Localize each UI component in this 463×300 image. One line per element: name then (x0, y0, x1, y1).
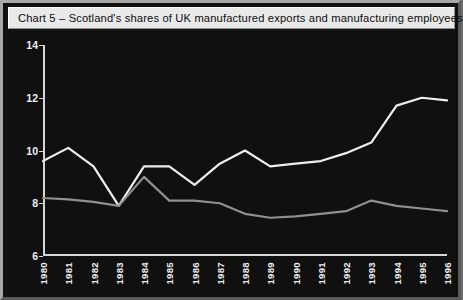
y-tick-label-14: 14 (26, 39, 38, 51)
x-tick-label-1984: 1984 (139, 262, 150, 285)
plot-area: 68101214 1980198119821983198419851986198… (43, 45, 447, 256)
y-tick-label-10: 10 (26, 145, 38, 157)
x-tick-label-1985: 1985 (164, 262, 175, 285)
y-tick-mark-6 (39, 256, 43, 257)
y-tick-label-12: 12 (26, 92, 38, 104)
x-tick-label-1983: 1983 (113, 262, 124, 285)
x-tick-label-1994: 1994 (391, 262, 402, 285)
x-tick-label-1989: 1989 (265, 262, 276, 285)
chart-title-bar: Chart 5 – Scotland's shares of UK manufa… (8, 7, 455, 29)
x-tick-label-1993: 1993 (366, 262, 377, 285)
x-tick-label-1982: 1982 (88, 262, 99, 285)
x-tick-label-1992: 1992 (341, 262, 352, 285)
x-tick-label-1987: 1987 (214, 262, 225, 285)
x-tick-label-1980: 1980 (38, 262, 49, 285)
page-title: Chart 5 – Scotland's shares of UK manufa… (9, 12, 463, 24)
x-tick-label-1986: 1986 (189, 262, 200, 285)
x-tick-label-1981: 1981 (63, 262, 74, 285)
series-line-exports (43, 98, 447, 206)
x-tick-label-1995: 1995 (416, 262, 427, 285)
y-tick-label-8: 8 (32, 197, 38, 209)
y-tick-label-6: 6 (32, 250, 38, 262)
chart-lines (43, 45, 447, 256)
x-tick-label-1988: 1988 (240, 262, 251, 285)
x-tick-label-1996: 1996 (442, 262, 453, 285)
x-tick-label-1990: 1990 (290, 262, 301, 285)
x-tick-label-1991: 1991 (315, 262, 326, 285)
